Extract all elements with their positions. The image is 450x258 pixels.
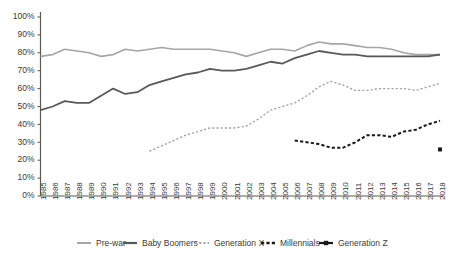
series-lines (41, 42, 443, 151)
y-axis-tick-label: 40% (17, 119, 34, 129)
y-axis-tick-label: 10% (17, 172, 34, 182)
x-axis-tick-label: 1990 (99, 182, 108, 200)
x-axis-tick-label: 2014 (390, 182, 399, 200)
x-axis-tick-label: 1998 (196, 182, 205, 200)
series-line-pre-war (41, 42, 441, 56)
chart-legend: Pre-warBaby BoomersGeneration XMillennia… (77, 238, 388, 248)
legend-label-pre-war: Pre-war (96, 238, 126, 248)
x-axis-tick-label: 1988 (75, 182, 84, 200)
series-line-millennials (295, 121, 440, 148)
y-axis-tick-label: 80% (17, 47, 34, 57)
legend-label-baby-boomers: Baby Boomers (142, 238, 198, 248)
y-axis-tick-label: 90% (17, 29, 34, 39)
data-point-marker (438, 147, 442, 151)
y-axis-tick-label: 100% (13, 11, 35, 21)
x-axis-tick-label: 1999 (208, 182, 217, 200)
x-axis-tick-label: 1994 (148, 182, 157, 200)
x-axis-tick-label: 2010 (341, 182, 350, 200)
x-axis-tick-label: 1995 (160, 182, 169, 200)
y-axis-tick-label: 30% (17, 137, 34, 147)
x-axis-tick-label: 1989 (87, 182, 96, 200)
x-axis-tick-label: 2013 (378, 182, 387, 200)
chart-container: 0%10%20%30%40%50%60%70%80%90%100% 198519… (0, 0, 450, 258)
legend-label-generation-x: Generation X (214, 238, 264, 248)
y-axis-tick-label: 60% (17, 83, 34, 93)
x-axis-tick-label: 2001 (233, 182, 242, 200)
x-axis-tick-label: 2016 (414, 182, 423, 200)
line-chart: 0%10%20%30%40%50%60%70%80%90%100% 198519… (0, 0, 450, 258)
y-axis-tick-label: 20% (17, 154, 34, 164)
legend-label-millennials: Millennials (280, 238, 320, 248)
y-axis-tick-label: 50% (17, 101, 34, 111)
y-axis-tick-label: 70% (17, 65, 34, 75)
x-axis-tick-label: 2008 (317, 182, 326, 200)
x-axis-tick-label: 1996 (172, 182, 181, 200)
y-axis-tick-labels: 0%10%20%30%40%50%60%70%80%90%100% (13, 11, 35, 200)
x-axis-tick-label: 1987 (63, 182, 72, 200)
x-axis-tick-label: 1993 (136, 182, 145, 200)
x-axis-tick-label: 2007 (305, 182, 314, 200)
y-axis-tick-label: 0% (22, 190, 35, 200)
x-axis-tick-label: 1997 (184, 182, 193, 200)
x-axis-tick-label: 2003 (257, 182, 266, 200)
x-axis-tick-label: 2009 (329, 182, 338, 200)
x-axis-tick-labels: 1985198619871988198919901991199219931994… (39, 182, 448, 200)
legend-label-generation-z: Generation Z (338, 238, 388, 248)
series-line-baby-boomers (41, 51, 441, 110)
x-axis-tick-label: 1991 (111, 182, 120, 200)
x-axis-tick-label: 1985 (39, 182, 48, 200)
x-axis-tick-label: 2000 (220, 182, 229, 200)
legend-marker-generation-z (324, 241, 328, 245)
x-axis-tick-label: 2002 (245, 182, 254, 200)
x-axis-tick-label: 2018 (438, 182, 447, 200)
x-axis-tick-label: 1992 (124, 182, 133, 200)
x-axis-tick-label: 2011 (354, 182, 363, 200)
x-axis-tick-label: 1986 (51, 182, 60, 200)
x-axis-tick-label: 2012 (366, 182, 375, 200)
x-axis-tick-label: 2015 (402, 182, 411, 200)
x-axis-tick-label: 2006 (293, 182, 302, 200)
x-axis-tick-label: 2005 (281, 182, 290, 200)
x-axis-tick-label: 2017 (426, 182, 435, 200)
x-axis-tick-label: 2004 (269, 182, 278, 200)
